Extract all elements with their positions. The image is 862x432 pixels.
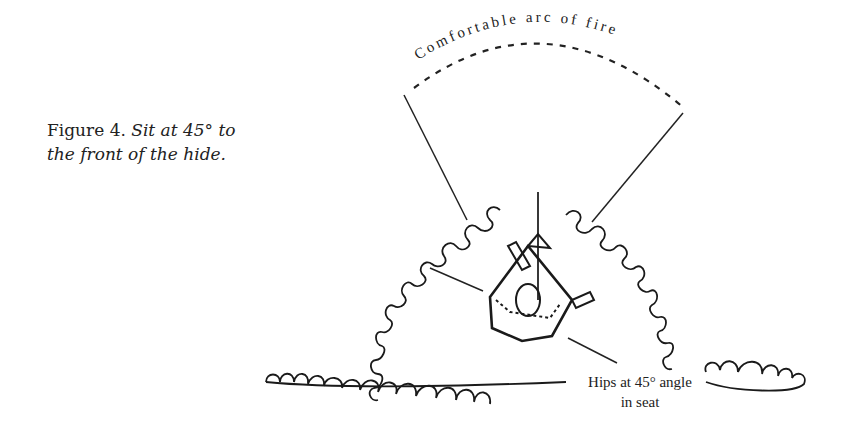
hips-label-line-2: in seat — [570, 392, 710, 412]
vegetation-front-left — [266, 374, 566, 404]
hip-line-right — [568, 338, 617, 363]
arc-of-fire-dashed-line — [414, 44, 684, 108]
hide-illustration: Comfortable arc of fire — [0, 0, 862, 432]
vegetation-front-right — [705, 361, 804, 390]
arc-of-fire-label: Comfortable arc of fire — [411, 9, 621, 63]
hips-label-line-1: Hips at 45° angle — [570, 372, 710, 392]
right-boundary-line — [592, 113, 683, 222]
vegetation-left — [370, 207, 500, 400]
seated-figure — [490, 234, 594, 341]
hip-line-left — [430, 268, 483, 291]
left-boundary-line — [404, 95, 467, 220]
hips-angle-label: Hips at 45° angle in seat — [570, 372, 710, 412]
